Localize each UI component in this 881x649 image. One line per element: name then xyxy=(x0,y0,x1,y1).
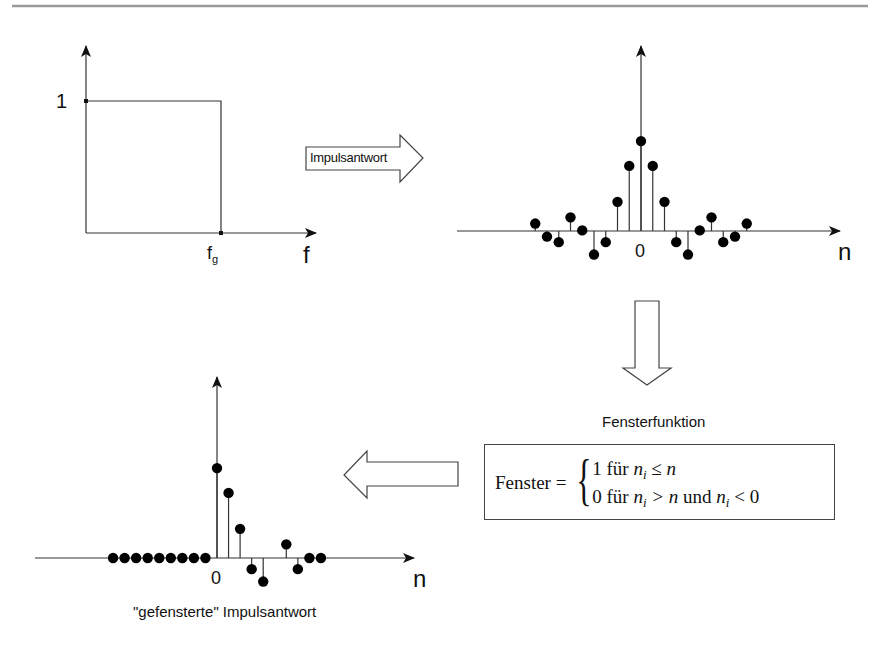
brace-icon: { xyxy=(577,451,592,509)
arrow-down xyxy=(623,301,671,385)
stem-dot xyxy=(108,553,118,563)
frequency-response-plot xyxy=(84,46,316,235)
stem-dot xyxy=(154,553,164,563)
case1-var: n xyxy=(633,458,643,479)
stem-dot xyxy=(119,553,129,563)
stem-dot xyxy=(143,553,153,563)
stem-dot xyxy=(648,161,658,171)
impulse-response-plot xyxy=(457,46,840,260)
stem-dot xyxy=(542,231,552,241)
case1-sub: i xyxy=(643,467,647,482)
stem-dot xyxy=(316,553,326,563)
stem-dot xyxy=(683,249,693,259)
case2-sub: i xyxy=(643,495,647,510)
stem-dot xyxy=(212,463,222,473)
stem-dot xyxy=(659,197,669,207)
case2-rel2: < 0 xyxy=(734,486,759,507)
y-tick-label-1: 1 xyxy=(56,91,67,111)
x-axis-label-n: n xyxy=(838,240,851,264)
stem-dot xyxy=(177,553,187,563)
stem-dot xyxy=(223,488,233,498)
case2-rel: > n xyxy=(651,486,678,507)
case-2: 0 für ni > n und ni < 0 xyxy=(592,486,759,508)
stem-dot xyxy=(742,218,752,228)
stem-dot xyxy=(554,237,564,247)
case1-rel: ≤ n xyxy=(651,458,676,479)
stem-dot xyxy=(258,576,268,586)
x-tick-label-fg: fg xyxy=(207,244,218,262)
stem-dot xyxy=(565,212,575,222)
stem-dot xyxy=(530,218,540,228)
fg-sub: g xyxy=(212,253,218,265)
stem-dot xyxy=(131,553,141,563)
formula-cases: 1 für ni ≤ n 0 für ni > n und ni < 0 xyxy=(592,458,759,508)
x-axis-label-n-windowed: n xyxy=(413,567,426,591)
stem-dot xyxy=(246,564,256,574)
case2-var2: n xyxy=(716,486,726,507)
case1-word: für xyxy=(607,458,629,479)
case2-var: n xyxy=(633,486,643,507)
stem-dot xyxy=(718,237,728,247)
windowed-caption: "gefensterte" Impulsantwort xyxy=(133,604,316,619)
stem-dot xyxy=(304,553,314,563)
case2-sub2: i xyxy=(726,495,730,510)
case1-value: 1 xyxy=(592,458,602,479)
stem-dot xyxy=(636,136,646,146)
case2-and: und xyxy=(683,486,712,507)
arrow-label-impulsantwort: Impulsantwort xyxy=(310,151,387,164)
window-formula: Fenster = { 1 für ni ≤ n 0 für ni > n un… xyxy=(495,445,759,521)
stem-dot xyxy=(706,212,716,222)
stem-dot xyxy=(235,524,245,534)
stem-dot xyxy=(189,553,199,563)
case2-word: für xyxy=(607,486,629,507)
stem-dot xyxy=(200,553,210,563)
stem-dot xyxy=(671,237,681,247)
marker-1 xyxy=(84,99,88,103)
diagram-canvas xyxy=(0,0,881,649)
x-axis-label-f: f xyxy=(303,243,310,267)
arrow-left xyxy=(344,451,458,498)
stem-dot xyxy=(281,539,291,549)
x-tick-label-0-windowed: 0 xyxy=(211,569,221,587)
window-function-heading: Fensterfunktion xyxy=(602,414,705,429)
stem-dot xyxy=(601,237,611,247)
stem-dot xyxy=(166,553,176,563)
case2-value: 0 xyxy=(592,486,602,507)
rect-passband xyxy=(86,101,221,233)
stem-dot xyxy=(695,225,705,235)
marker-fg xyxy=(219,231,223,235)
stem-dot xyxy=(730,231,740,241)
stem-dot xyxy=(612,197,622,207)
stem-dot xyxy=(624,161,634,171)
formula-lhs: Fenster = xyxy=(495,472,566,494)
stem-dot xyxy=(589,249,599,259)
case-1: 1 für ni ≤ n xyxy=(592,458,759,480)
window-function-box: Fenster = { 1 für ni ≤ n 0 für ni > n un… xyxy=(484,444,835,520)
x-tick-label-0: 0 xyxy=(635,242,645,260)
stem-dot xyxy=(293,564,303,574)
stem-dot xyxy=(577,225,587,235)
